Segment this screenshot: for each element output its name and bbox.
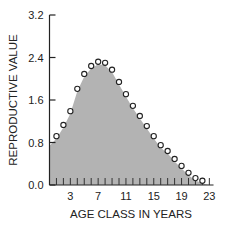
data-point-marker bbox=[103, 60, 108, 65]
data-point-marker bbox=[75, 86, 80, 91]
shaded-area bbox=[50, 64, 210, 185]
data-point-marker bbox=[186, 170, 191, 175]
data-point-marker bbox=[130, 103, 135, 108]
x-tick-label: 11 bbox=[120, 190, 131, 202]
y-tick-label: 0.0 bbox=[28, 179, 43, 191]
data-point-marker bbox=[96, 59, 101, 64]
data-point-marker bbox=[165, 148, 170, 153]
data-point-marker bbox=[116, 79, 121, 84]
y-tick-label: 0.8 bbox=[28, 137, 43, 149]
reproductive-value-chart: 0.00.81.62.43.23711151923 AGE CLASS IN Y… bbox=[0, 0, 227, 230]
data-point-marker bbox=[82, 71, 87, 76]
y-tick-label: 2.4 bbox=[28, 52, 43, 64]
data-point-marker bbox=[179, 163, 184, 168]
data-point-marker bbox=[61, 122, 66, 127]
x-tick-label: 19 bbox=[175, 190, 187, 202]
data-point-marker bbox=[200, 178, 205, 183]
y-tick-label: 1.6 bbox=[28, 94, 43, 106]
data-point-marker bbox=[172, 156, 177, 161]
data-point-marker bbox=[151, 134, 156, 139]
data-point-marker bbox=[68, 109, 73, 114]
data-point-marker bbox=[54, 134, 59, 139]
x-tick-label: 23 bbox=[203, 190, 215, 202]
data-point-marker bbox=[158, 143, 163, 148]
x-axis-title: AGE CLASS IN YEARS bbox=[70, 208, 192, 220]
data-point-marker bbox=[193, 175, 198, 180]
data-point-marker bbox=[137, 113, 142, 118]
data-point-marker bbox=[123, 92, 128, 97]
area-fill bbox=[50, 64, 210, 185]
y-axis-title: REPRODUCTIVE VALUE bbox=[7, 34, 19, 166]
x-tick-label: 7 bbox=[95, 190, 101, 202]
data-point-marker bbox=[89, 63, 94, 68]
data-point-marker bbox=[144, 123, 149, 128]
y-tick-label: 3.2 bbox=[28, 9, 43, 21]
x-tick-label: 3 bbox=[67, 190, 73, 202]
data-point-marker bbox=[109, 67, 114, 72]
x-tick-label: 15 bbox=[148, 190, 160, 202]
